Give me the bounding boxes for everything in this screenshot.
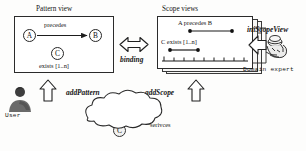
binding-double-arrow (120, 38, 148, 52)
cloud-node-b: B (132, 108, 145, 121)
scope-timeline-label-2: C exists [1..n] (161, 39, 197, 45)
user-figure (9, 87, 31, 112)
binding-label: binding (120, 56, 143, 63)
scope-timeline-label-1: A precedes B (178, 20, 212, 26)
domain-expert-label: Domain expert (243, 67, 294, 73)
diagram-canvas: Pattern view A B precedes C exists [1..n… (0, 0, 306, 151)
user-label: User (5, 113, 21, 119)
services-label: serivces (150, 122, 171, 128)
iniscopeview-label: iniScopeView (247, 26, 288, 33)
addpattern-arrow (40, 80, 56, 101)
scope-views-title: Scope views (162, 6, 198, 13)
addscope-label: addScope (145, 89, 174, 96)
addscope-arrow (188, 80, 204, 101)
pattern-node-b: B (89, 29, 102, 42)
addpattern-label: addPattern (66, 89, 100, 96)
pattern-node-a: A (23, 29, 36, 42)
pattern-relation-label: precedes (44, 22, 66, 28)
cloud-node-c: C (113, 124, 126, 137)
domain-expert-figure (266, 36, 287, 58)
cloud-node-a: A (95, 112, 108, 125)
pattern-cardinality-label: exists [1..n] (39, 63, 69, 69)
pattern-view-title: Pattern view (36, 6, 72, 13)
pattern-node-c: C (51, 47, 64, 60)
